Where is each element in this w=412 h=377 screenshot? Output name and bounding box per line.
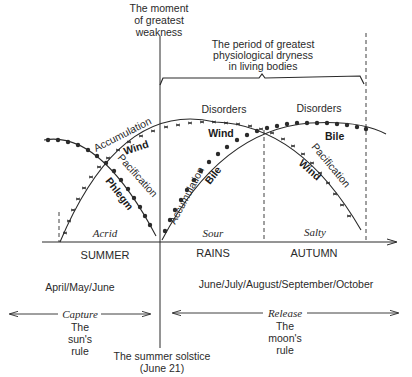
dryness-label-3: in living bodies: [229, 60, 298, 72]
bile-label-1: Bile: [202, 164, 223, 187]
season-rains: RAINS: [196, 247, 230, 259]
taste-acrid: Acrid: [92, 227, 118, 239]
wind-label-3: Wind: [297, 157, 324, 183]
months-rains-autumn: June/July/August/September/October: [199, 278, 374, 290]
wind-pacification-label: Pacification: [309, 141, 353, 190]
months-summer: April/May/June: [45, 281, 115, 293]
sun-rule-3: rule: [71, 345, 89, 357]
bile-label-2: Bile: [325, 130, 344, 142]
disorders-label-1: Disorders: [202, 103, 247, 115]
weakness-label-2: of greatest: [134, 14, 184, 26]
moon-rule-1: The: [276, 320, 294, 332]
sun-rule-1: The: [71, 321, 89, 333]
disorders-label-2: Disorders: [297, 102, 342, 114]
weakness-label-3: weakness: [135, 26, 183, 38]
moon-rule-3: rule: [276, 344, 294, 356]
solstice-label-1: The summer solstice: [114, 350, 211, 362]
taste-salty: Salty: [304, 226, 326, 238]
solstice-label-2: (June 21): [140, 362, 184, 374]
wind-label-2: Wind: [208, 127, 234, 139]
dosha-season-diagram: The moment of greatest weakness The peri…: [0, 0, 412, 377]
sun-rule-2: sun's: [68, 333, 92, 345]
weakness-label-1: The moment: [130, 2, 189, 14]
phlegm-curve: [44, 139, 156, 236]
taste-sour: Sour: [203, 227, 225, 239]
dryness-bracket: [160, 74, 364, 85]
phase-release: Release: [267, 307, 302, 319]
bile-accumulation-label: Accumulation: [166, 165, 206, 226]
season-summer: SUMMER: [81, 249, 130, 261]
moon-rule-2: moon's: [268, 332, 302, 344]
season-autumn: AUTUMN: [290, 247, 337, 259]
phase-capture: Capture: [62, 308, 98, 320]
